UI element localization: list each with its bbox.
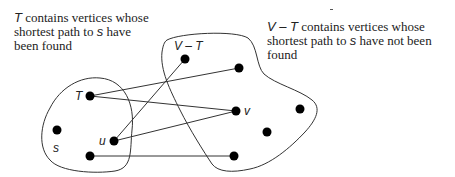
node-c: [296, 105, 305, 114]
node-t: [86, 92, 95, 101]
node-u: [110, 137, 119, 146]
node-t4: [86, 152, 95, 161]
region-vt-boundary: [162, 33, 317, 171]
node-e: [230, 152, 239, 161]
label-node-v: v: [244, 104, 251, 118]
node-v: [232, 107, 241, 116]
label-node-u: u: [99, 134, 106, 148]
node-b: [235, 64, 244, 73]
node-a: [181, 55, 190, 64]
node-s: [53, 126, 62, 135]
label-region-vt: V – T: [174, 39, 204, 53]
edge-t-v: [90, 96, 236, 111]
graph-svg: V – T T s u v: [0, 0, 455, 177]
label-node-t: T: [75, 89, 84, 103]
node-d: [263, 128, 272, 137]
diagram-canvas: T contains vertices whose shortest path …: [0, 0, 455, 177]
label-node-s: s: [53, 141, 59, 155]
